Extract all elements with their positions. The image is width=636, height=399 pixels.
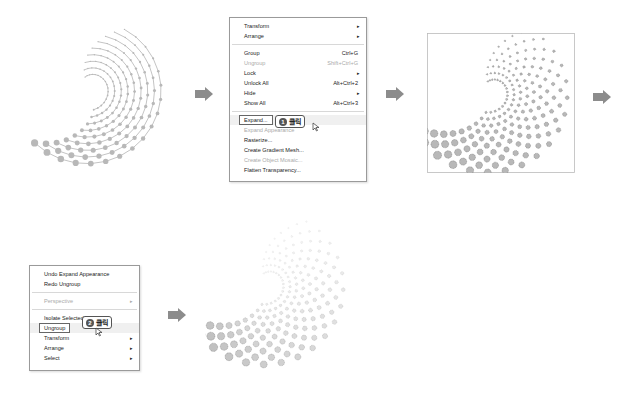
submenu-arrow-icon: ▸ <box>357 21 360 31</box>
menu-item-lock[interactable]: Lock▸ <box>230 68 366 78</box>
menu-item-transform[interactable]: Transform▸ <box>230 21 366 31</box>
menu-item-flatten-transparency[interactable]: Flatten Transparency... <box>230 165 366 175</box>
shortcut-label: Shift+Ctrl+G <box>327 58 358 68</box>
pointer-cursor-icon <box>95 327 103 337</box>
menu-item-hide[interactable]: Hide▸ <box>230 88 366 98</box>
step-number-badge: 1 <box>279 118 287 126</box>
final-spiral-artwork <box>205 215 365 375</box>
menu-item-unlock-all[interactable]: Unlock AllAlt+Ctrl+2 <box>230 78 366 88</box>
submenu-arrow-icon: ▸ <box>130 296 133 306</box>
menu-item-undo-expand-appearance[interactable]: Undo Expand Appearance <box>30 269 139 279</box>
right-arrow-icon <box>593 90 611 104</box>
menu-item-show-all[interactable]: Show AllAlt+Ctrl+3 <box>230 98 366 108</box>
menu-item-create-gradient-mesh[interactable]: Create Gradient Mesh... <box>230 145 366 155</box>
submenu-arrow-icon: ▸ <box>357 68 360 78</box>
right-arrow-icon <box>168 308 186 322</box>
menu-item-transform[interactable]: Transform▸ <box>30 333 139 343</box>
menu-item-arrange[interactable]: Arrange▸ <box>30 343 139 353</box>
shortcut-label: Alt+Ctrl+2 <box>333 78 358 88</box>
menu-item-arrange[interactable]: Arrange▸ <box>230 31 366 41</box>
menu-separator <box>232 44 364 45</box>
submenu-arrow-icon: ▸ <box>357 88 360 98</box>
menu-item-redo-ungroup[interactable]: Redo Ungroup <box>30 279 139 289</box>
menu-separator <box>32 309 137 310</box>
context-menu-object: Transform▸ Arrange▸ GroupCtrl+G UngroupS… <box>229 17 367 182</box>
submenu-arrow-icon: ▸ <box>357 31 360 41</box>
expanded-spiral-artwork <box>427 33 575 173</box>
shortcut-label: Ctrl+G <box>342 48 358 58</box>
menu-item-select[interactable]: Select▸ <box>30 353 139 363</box>
right-arrow-icon <box>386 87 404 101</box>
submenu-arrow-icon: ▸ <box>130 333 133 343</box>
step-1-callout: 1클릭 <box>275 115 305 128</box>
menu-item-create-object-mosaic: Create Object Mosaic... <box>230 155 366 165</box>
menu-item-perspective: Perspective▸ <box>30 296 139 306</box>
pointer-cursor-icon <box>312 122 320 132</box>
menu-separator <box>32 292 137 293</box>
menu-item-group[interactable]: GroupCtrl+G <box>230 48 366 58</box>
step-number-badge: 2 <box>86 319 94 327</box>
right-arrow-icon <box>195 87 213 101</box>
submenu-arrow-icon: ▸ <box>130 343 133 353</box>
menu-separator <box>232 111 364 112</box>
submenu-arrow-icon: ▸ <box>130 353 133 363</box>
spiral-paths-artwork <box>20 18 180 168</box>
shortcut-label: Alt+Ctrl+3 <box>333 98 358 108</box>
menu-item-ungroup: UngroupShift+Ctrl+G <box>230 58 366 68</box>
menu-item-rasterize[interactable]: Rasterize... <box>230 135 366 145</box>
